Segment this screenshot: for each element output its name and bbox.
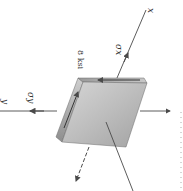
y-axis-label: y xyxy=(0,98,10,105)
shear-stress-label: 8 ksi xyxy=(76,50,85,70)
stress-block xyxy=(56,78,147,147)
stress-element-diagram: x σx 8 ksi y σy xyxy=(0,0,183,191)
x-axis: x xyxy=(117,8,156,78)
sigma-y-arrow: σy xyxy=(26,92,44,111)
sigma-x-arrow-negative xyxy=(76,147,89,181)
x-axis-label: x xyxy=(146,8,156,13)
sigma-x-label: σx xyxy=(114,44,124,55)
sigma-y-label: σy xyxy=(26,92,36,104)
sigma-x-arrow: σx xyxy=(114,44,128,62)
